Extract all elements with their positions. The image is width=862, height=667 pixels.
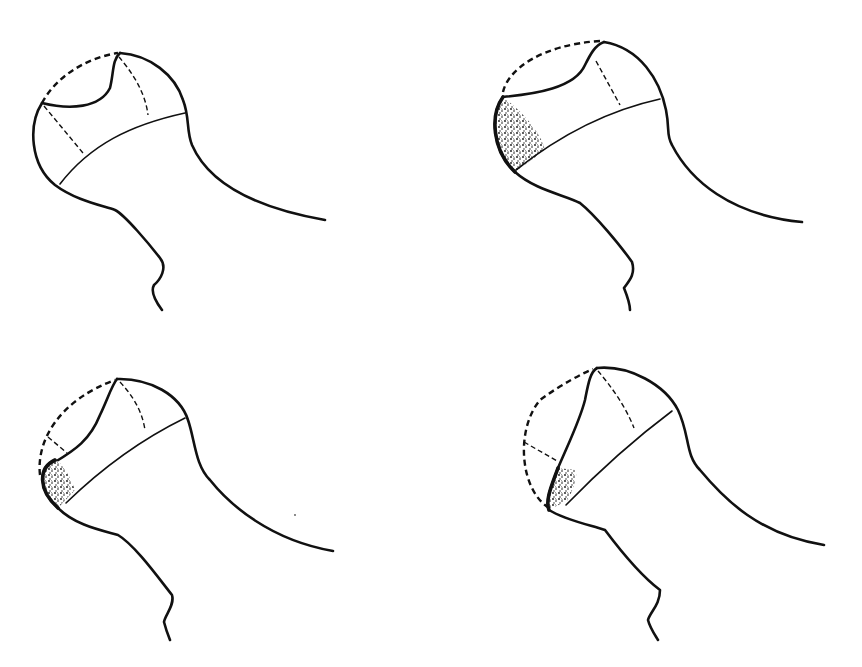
resection-line-right xyxy=(598,371,634,428)
resected-head-surface xyxy=(503,42,604,97)
neck-cut-arc xyxy=(60,113,185,184)
resection-line-right xyxy=(119,57,148,115)
resected-head-surface xyxy=(42,53,120,107)
resected-head-surface xyxy=(558,368,597,468)
panel-3 xyxy=(40,379,333,640)
resected-head-surface xyxy=(55,379,117,462)
figure-canvas xyxy=(0,0,862,667)
head-outline xyxy=(117,379,333,551)
panel-2 xyxy=(495,41,802,310)
resection-line-right xyxy=(596,61,620,105)
panel-1 xyxy=(33,53,325,310)
panel-4 xyxy=(524,368,824,640)
neck-cut-arc xyxy=(66,418,185,503)
resection-line-right xyxy=(120,382,145,430)
original-head-outline-dashed xyxy=(42,53,118,103)
head-outline xyxy=(120,53,325,220)
head-outline xyxy=(597,368,824,545)
stippled-lesion-region xyxy=(495,97,545,172)
stray-mark xyxy=(294,514,296,516)
resection-line-left xyxy=(44,106,83,153)
head-outline xyxy=(604,42,802,222)
resection-line-left xyxy=(524,442,557,461)
neck-cut-arc xyxy=(566,411,672,505)
resection-line-left xyxy=(48,437,67,453)
head-left-contour xyxy=(33,103,163,310)
